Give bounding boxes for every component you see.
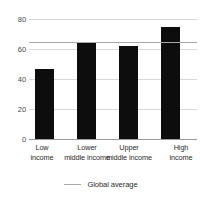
bar-low-income[interactable] <box>35 69 54 140</box>
x-label-high-income: High income <box>151 143 202 162</box>
chart-legend: Global average <box>0 180 202 189</box>
y-tick-label-20: 20 <box>4 106 26 114</box>
axis-baseline <box>29 139 197 140</box>
y-tick-label-60: 60 <box>4 46 26 54</box>
y-tick-label-40: 40 <box>4 76 26 84</box>
legend-label-global-average: Global average <box>87 180 137 189</box>
plot-area <box>29 19 197 139</box>
bar-lower-middle-income[interactable] <box>77 43 96 139</box>
gridline-80 <box>29 19 197 20</box>
x-label-high-income-line2: income <box>151 153 202 163</box>
legend-line-swatch <box>64 184 81 185</box>
x-label-high-income-line1: High <box>151 143 202 153</box>
x-axis-labels: Low income Lower middle income Upper mid… <box>29 143 197 169</box>
bar-chart: 80 60 40 20 0 Low income Lower middle in… <box>0 0 202 202</box>
y-tick-label-80: 80 <box>4 16 26 24</box>
global-average-line <box>29 42 197 43</box>
bar-upper-middle-income[interactable] <box>119 46 138 139</box>
bar-high-income[interactable] <box>161 27 180 140</box>
